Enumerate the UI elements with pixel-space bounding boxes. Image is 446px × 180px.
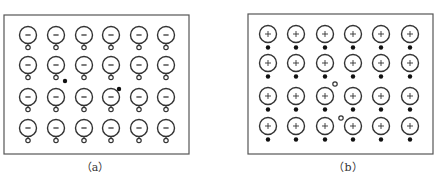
caption-a: （a） [81,158,110,174]
hole-icon [164,107,168,111]
hole-icon [54,75,58,79]
electron-icon [408,107,412,111]
hole-icon [54,107,58,111]
hole-icon [164,45,168,49]
electron-icon [294,107,298,111]
electron-icon [323,45,327,49]
electron-icon [379,137,383,141]
electron-icon [379,74,383,78]
electron-icon [294,45,298,49]
electron-icon [266,137,270,141]
hole-icon [109,107,113,111]
hole-icon [82,138,86,142]
hole-icon [109,45,113,49]
hole-icon [109,138,113,142]
electron-icon [294,137,298,141]
electron-icon [408,137,412,141]
free-hole-icon [333,82,337,86]
hole-icon [26,75,30,79]
hole-icon [109,75,113,79]
free-hole-icon [339,116,343,120]
hole-icon [137,75,141,79]
free-electron-icon [117,87,121,91]
electron-icon [351,137,355,141]
hole-icon [164,138,168,142]
electron-icon [266,45,270,49]
hole-icon [137,138,141,142]
electron-icon [379,107,383,111]
electron-icon [351,45,355,49]
free-electron-icon [63,79,67,83]
hole-icon [82,75,86,79]
electron-icon [408,45,412,49]
electron-icon [323,74,327,78]
hole-icon [26,107,30,111]
hole-icon [26,45,30,49]
hole-icon [82,107,86,111]
hole-icon [54,138,58,142]
hole-icon [26,138,30,142]
electron-icon [266,74,270,78]
electron-icon [379,45,383,49]
electron-icon [323,107,327,111]
electron-icon [351,74,355,78]
electron-icon [266,107,270,111]
semiconductor-lattice-diagram [0,0,446,180]
hole-icon [164,75,168,79]
hole-icon [54,45,58,49]
hole-icon [137,45,141,49]
electron-icon [408,74,412,78]
hole-icon [137,107,141,111]
electron-icon [351,107,355,111]
electron-icon [294,74,298,78]
caption-b: （b） [333,158,362,174]
electron-icon [323,137,327,141]
hole-icon [82,45,86,49]
